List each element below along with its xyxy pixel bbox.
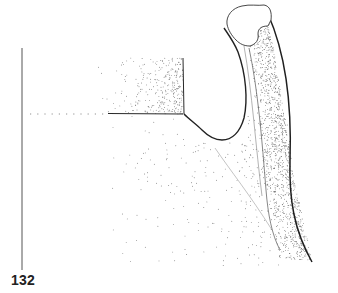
stipple-rim-area	[98, 58, 183, 115]
handle-break-outline	[227, 5, 271, 46]
stipple-body-area	[112, 116, 307, 266]
neck-edge-line	[183, 58, 184, 114]
figure-number-label: 132	[11, 272, 35, 288]
handle-loop-outline	[184, 28, 246, 140]
pottery-drawing	[0, 0, 338, 293]
rim-profile-line	[108, 114, 183, 115]
